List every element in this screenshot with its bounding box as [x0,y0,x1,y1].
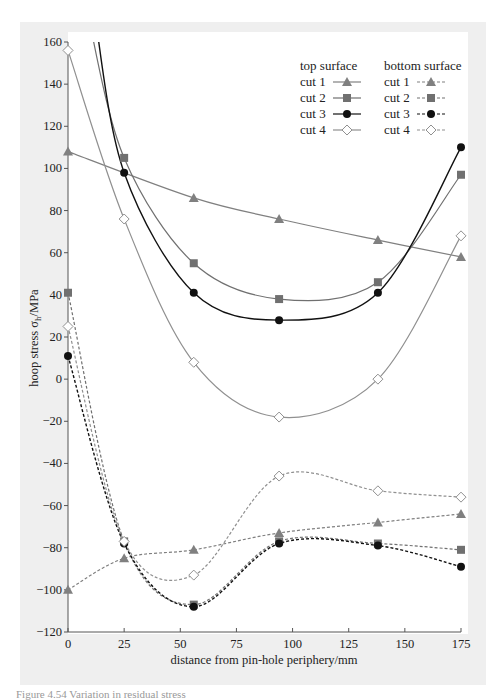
legend-heading-top: top surface [300,58,362,74]
circle-marker [374,542,382,550]
y-axis-label: hoop stress σh/MPa [27,289,43,387]
square-marker [190,259,198,267]
x-tick-label: 125 [339,637,358,651]
square-marker [275,295,283,303]
y-tick-label: −40 [42,456,62,470]
circle-marker [275,316,283,324]
y-tick-label: 20 [50,330,63,344]
y-tick-label: −20 [42,414,62,428]
circle-marker [120,169,128,177]
x-tick-label: 75 [230,637,243,651]
circle-marker [275,540,283,548]
legend-swatch-icon [416,108,446,120]
legend-item: cut 3 [384,106,462,122]
square-marker [343,94,351,102]
legend-item: cut 4 [300,122,362,138]
open-diamond-marker [274,412,284,422]
legend-swatch-icon [416,124,446,136]
legend-item: cut 1 [300,74,362,90]
square-marker [120,154,128,162]
triangle-marker [373,517,383,526]
open-diamond-marker [189,570,199,580]
open-diamond-marker [373,486,383,496]
y-tick-label: 120 [43,119,62,133]
circle-marker [374,289,382,297]
triangle-marker [63,147,73,156]
y-tick-label: 100 [43,161,62,175]
square-marker [374,278,382,286]
legend-heading-bottom: bottom surface [384,58,462,74]
legend-swatch-icon [416,76,446,88]
legend-swatch-icon [332,76,362,88]
square-marker [427,94,435,102]
square-marker [64,289,72,297]
y-tick-label: 40 [50,288,63,302]
legend-label: cut 1 [384,74,410,90]
y-tick-label: 160 [43,35,62,49]
circle-marker [190,603,198,611]
triangle-marker [456,509,466,518]
circle-marker [427,110,435,118]
legend-swatch-icon [332,92,362,104]
open-diamond-marker [426,125,436,135]
open-diamond-marker [63,45,73,55]
legend-label: cut 2 [300,90,326,106]
square-marker [457,171,465,179]
legend-top-surface: top surface cut 1cut 2cut 3cut 4 [300,58,362,138]
x-tick-label: 50 [174,637,187,651]
x-axis-label: distance from pin-hole periphery/mm [170,653,357,667]
x-tick-label: 0 [65,637,71,651]
y-tick-label: 60 [50,246,63,260]
legend-item: cut 4 [384,122,462,138]
y-tick-label: −80 [42,541,62,555]
circle-marker [190,289,198,297]
series-line [68,152,461,257]
legend-label: cut 1 [300,74,326,90]
y-tick-label: −120 [36,625,62,639]
open-diamond-marker [342,125,352,135]
x-tick-label: 175 [452,637,471,651]
y-tick-label: −60 [42,499,62,513]
circle-marker [343,110,351,118]
open-diamond-marker [119,214,129,224]
circle-marker [457,563,465,571]
x-tick-label: 100 [283,637,302,651]
y-tick-label: −100 [36,583,62,597]
x-tick-label: 25 [118,637,131,651]
legend-item: cut 2 [300,90,362,106]
square-marker [457,546,465,554]
y-tick-label: 80 [50,204,63,218]
legend-bottom-surface: bottom surface cut 1cut 2cut 3cut 4 [384,58,462,138]
legend-swatch-icon [332,124,362,136]
y-tick-label: 140 [43,77,62,91]
legend-swatch-icon [416,92,446,104]
legend-label: cut 2 [384,90,410,106]
legend-swatch-icon [332,108,362,120]
legend-item: cut 2 [384,90,462,106]
legend-label: cut 4 [384,122,410,138]
open-diamond-marker [456,231,466,241]
x-tick-label: 150 [395,637,414,651]
circle-marker [457,143,465,151]
open-diamond-marker [63,321,73,331]
triangle-marker [189,545,199,554]
legend-label: cut 4 [300,122,326,138]
legend-item: cut 1 [384,74,462,90]
triangle-marker [119,553,129,562]
open-diamond-marker [274,471,284,481]
figure-caption: Figure 4.54 Variation in residual stress [16,688,186,700]
triangle-marker [189,193,199,202]
legend-label: cut 3 [300,106,326,122]
circle-marker [64,352,72,360]
open-diamond-marker [456,492,466,502]
legend-item: cut 3 [300,106,362,122]
legend-label: cut 3 [384,106,410,122]
series-line [68,356,461,607]
y-tick-label: 0 [56,372,62,386]
